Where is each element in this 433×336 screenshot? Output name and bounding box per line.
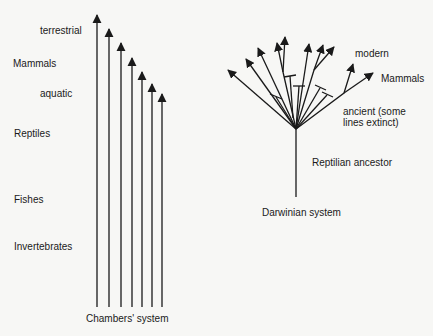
branch-modern-8 [314, 47, 334, 70]
caption-darwinian: Darwinian system [262, 207, 341, 218]
branch-modern-10 [344, 73, 373, 93]
label-mammals-darwinian: Mammals [381, 73, 424, 84]
label-terrestrial: terrestrial [40, 25, 82, 36]
label-ancient-line1: ancient (some [343, 106, 406, 117]
label-mammals-chambers: Mammals [13, 58, 56, 69]
extinct-cap-4 [315, 85, 326, 90]
branch-modern-1 [228, 70, 296, 129]
label-invertebrates: Invertebrates [14, 241, 72, 252]
extinct-cap-5 [322, 92, 333, 97]
label-reptiles: Reptiles [14, 128, 50, 139]
label-modern: modern [355, 48, 389, 59]
label-fishes: Fishes [14, 194, 43, 205]
chambers-arrows [97, 15, 162, 307]
caption-chambers: Chambers' system [86, 313, 169, 324]
label-aquatic: aquatic [40, 88, 72, 99]
label-reptilian-ancestor: Reptilian ancestor [312, 157, 392, 168]
label-ancient-line2: lines extinct) [343, 117, 399, 128]
branch-modern-5 [283, 37, 285, 72]
